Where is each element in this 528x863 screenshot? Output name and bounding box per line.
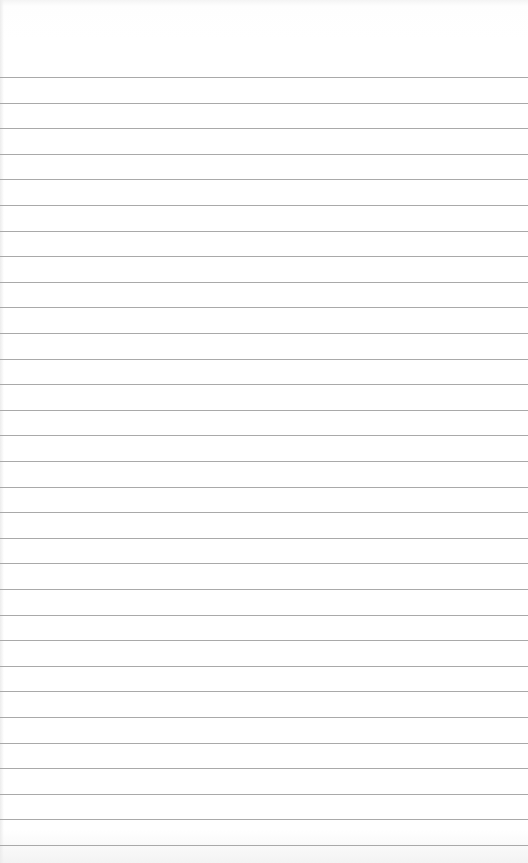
ruled-line xyxy=(0,410,528,411)
ruled-line xyxy=(0,307,528,308)
ruled-line xyxy=(0,768,528,769)
ruled-line xyxy=(0,179,528,180)
ruled-line xyxy=(0,128,528,129)
ruled-line xyxy=(0,333,528,334)
ruled-line xyxy=(0,384,528,385)
ruled-line xyxy=(0,77,528,78)
ruled-line xyxy=(0,615,528,616)
ruled-line xyxy=(0,359,528,360)
ruled-line xyxy=(0,282,528,283)
ruled-line xyxy=(0,717,528,718)
ruled-line xyxy=(0,666,528,667)
ruled-line xyxy=(0,743,528,744)
ruled-line xyxy=(0,512,528,513)
ruled-line xyxy=(0,154,528,155)
ruled-line xyxy=(0,819,528,820)
ruled-line xyxy=(0,589,528,590)
paper-edge-shadow xyxy=(0,0,4,863)
ruled-line xyxy=(0,205,528,206)
ruled-line xyxy=(0,640,528,641)
lined-paper-sheet xyxy=(0,0,528,863)
ruled-line xyxy=(0,103,528,104)
ruled-line xyxy=(0,256,528,257)
ruled-line xyxy=(0,691,528,692)
ruled-line xyxy=(0,845,528,846)
ruled-line xyxy=(0,231,528,232)
ruled-line xyxy=(0,435,528,436)
ruled-line xyxy=(0,538,528,539)
ruled-line xyxy=(0,487,528,488)
ruled-line xyxy=(0,461,528,462)
ruled-line xyxy=(0,563,528,564)
ruled-line xyxy=(0,794,528,795)
